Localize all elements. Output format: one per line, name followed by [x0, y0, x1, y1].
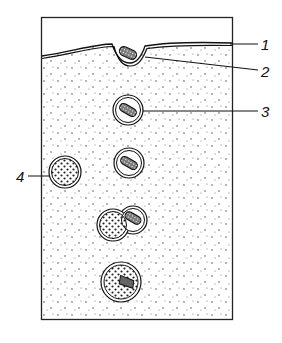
label-2: 2	[261, 64, 269, 79]
label-1: 1	[261, 37, 269, 52]
phagolysosome	[101, 262, 141, 302]
lysosome	[49, 156, 81, 188]
label-4: 4	[16, 169, 24, 184]
bacterium-attached	[118, 45, 138, 61]
phagosome	[113, 95, 143, 125]
phagosome-migrating	[114, 148, 144, 178]
phagocytosis-diagram	[0, 0, 282, 343]
label-3: 3	[261, 104, 269, 119]
